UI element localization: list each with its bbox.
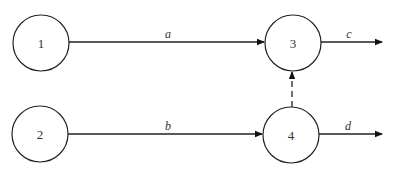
node-3-label: 3 [290,36,297,51]
node-2: 2 [12,106,68,162]
diagram-canvas: a b c d 1 2 3 4 [0,0,393,172]
edge-b: b [68,119,262,134]
edge-a: a [69,27,264,42]
node-4-label: 4 [288,128,295,143]
node-4: 4 [263,107,319,163]
edge-a-label: a [165,27,171,41]
edge-c: c [321,27,382,42]
node-2-label: 2 [37,127,44,142]
edge-d-label: d [345,119,352,133]
edge-c-label: c [346,27,352,41]
edge-d: d [319,119,382,134]
node-1-label: 1 [38,36,45,51]
node-1: 1 [13,15,69,71]
node-3: 3 [265,15,321,71]
edge-b-label: b [165,119,171,133]
